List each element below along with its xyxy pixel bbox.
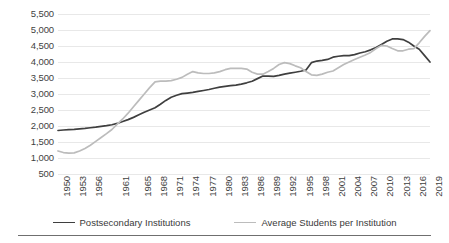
x-tick-label: 1995 (305, 176, 315, 197)
x-tick-label: 1989 (272, 176, 282, 197)
legend-label-postsecondary-institutions: Postsecondary Institutions (80, 217, 191, 228)
gridline (58, 174, 430, 175)
legend-label-average-students-per-institution: Average Students per Institution (261, 217, 396, 228)
y-tick-label: 3,500 (31, 73, 54, 83)
line-chart: 5001,0001,5002,0002,5003,0003,5004,0004,… (0, 0, 449, 243)
x-tick-label: 1965 (143, 176, 153, 197)
x-tick-label: 1986 (256, 176, 266, 197)
chart-legend: Postsecondary Institutions Average Stude… (0, 214, 449, 230)
x-tick-label: 1953 (78, 176, 88, 197)
series-line-postsecondary-institutions (58, 39, 430, 131)
x-tick-label: 1998 (321, 176, 331, 197)
y-tick-label: 4,000 (31, 57, 54, 67)
x-tick-label: 2001 (337, 176, 347, 197)
x-tick-label: 2010 (385, 176, 395, 197)
y-tick-label: 5,500 (31, 9, 54, 19)
y-tick-label: 1,500 (31, 137, 54, 147)
x-tick-label: 1980 (224, 176, 234, 197)
legend-item-average-students-per-institution[interactable]: Average Students per Institution (234, 217, 396, 228)
x-tick-label: 1974 (191, 176, 201, 197)
legend-item-postsecondary-institutions[interactable]: Postsecondary Institutions (53, 217, 191, 228)
y-tick-label: 3,000 (31, 89, 54, 99)
y-tick-label: 4,500 (31, 41, 54, 51)
series-line-average-students-per-institution (58, 31, 430, 154)
x-tick-label: 2007 (369, 176, 379, 197)
y-tick-label: 500 (38, 169, 54, 179)
x-tick-label: 1977 (208, 176, 218, 197)
x-axis: 1950195319561961196519681971197419771980… (58, 176, 430, 216)
series-layer (58, 14, 430, 174)
x-tick-label: 1961 (121, 176, 131, 197)
bottom-divider (18, 235, 431, 236)
y-axis: 5001,0001,5002,0002,5003,0003,5004,0004,… (0, 14, 54, 174)
x-tick-label: 2016 (418, 176, 428, 197)
x-tick-label: 1983 (240, 176, 250, 197)
y-tick-label: 1,000 (31, 153, 54, 163)
x-tick-label: 2004 (353, 176, 363, 197)
y-tick-label: 2,500 (31, 105, 54, 115)
x-tick-label: 1950 (62, 176, 72, 197)
x-tick-label: 1968 (159, 176, 169, 197)
x-tick-label: 1971 (175, 176, 185, 197)
x-tick-label: 2019 (434, 176, 444, 197)
y-tick-label: 5,000 (31, 25, 54, 35)
legend-swatch-postsecondary-institutions (53, 222, 75, 223)
x-tick-label: 2013 (402, 176, 412, 197)
x-tick-label: 1956 (94, 176, 104, 197)
y-tick-label: 2,000 (31, 121, 54, 131)
legend-swatch-average-students-per-institution (234, 222, 256, 223)
x-tick-label: 1992 (288, 176, 298, 197)
plot-area (58, 14, 430, 174)
